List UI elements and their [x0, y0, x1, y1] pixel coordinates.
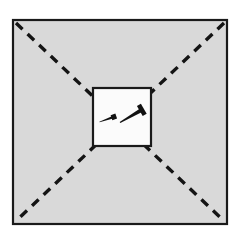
detail-inset-square	[93, 88, 151, 146]
diagram-svg	[0, 0, 237, 233]
figure-container	[0, 0, 237, 233]
